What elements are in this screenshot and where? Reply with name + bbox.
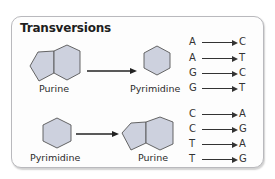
arrow-icon [202,159,232,160]
transversion-pair: T G [189,153,259,165]
arrow-icon [202,129,232,130]
base-from: A [189,52,196,63]
base-to: T [239,82,245,93]
base-to: G [239,123,247,134]
base-from: A [189,36,196,47]
transversion-pair: A C [189,36,259,48]
base-from: G [189,67,197,78]
base-to: A [239,108,246,119]
arrow-icon [202,88,232,89]
pyrimidine-label: Pyrimidine [130,83,180,94]
arrow-icon [76,131,119,137]
base-to: T [239,52,245,63]
base-to: G [239,153,247,164]
pyrimidine-icon [43,118,71,148]
arrow-icon [202,114,232,115]
base-to: C [239,67,246,78]
transversion-pair: T A [189,138,259,150]
base-from: T [189,153,195,164]
base-from: T [189,138,195,149]
purine-icon [122,117,173,150]
pyrimidine-label: Pyrimidine [30,152,80,163]
pyrimidine-icon [144,46,170,75]
base-from: G [189,82,197,93]
base-to: A [239,138,246,149]
purine-label: Purine [39,83,69,94]
transversion-pair: A T [189,52,259,64]
arrow-icon [202,58,232,59]
arrow-icon [87,68,137,74]
base-from: C [189,108,196,119]
purine-icon [30,45,80,81]
base-from: C [189,123,196,134]
transversion-pair: G T [189,82,259,94]
purine-label: Purine [138,152,168,163]
transversion-pair: C A [189,108,259,120]
arrow-icon [202,42,232,43]
transversion-pair: C G [189,123,259,135]
arrow-icon [202,144,232,145]
transversion-pair: G C [189,67,259,79]
arrow-icon [202,73,232,74]
base-to: C [239,36,246,47]
